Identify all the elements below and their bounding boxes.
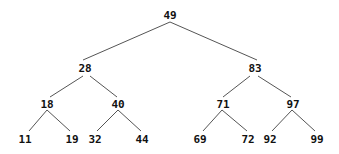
tree-node-97: 97 bbox=[286, 99, 299, 110]
tree-node-28: 28 bbox=[78, 63, 91, 74]
tree-node-32: 32 bbox=[88, 134, 101, 145]
tree-node-71: 71 bbox=[216, 99, 229, 110]
tree-node-40: 40 bbox=[111, 99, 124, 110]
tree-node-69: 69 bbox=[193, 134, 206, 145]
tree-node-99: 99 bbox=[310, 134, 323, 145]
tree-edge-n97-n99 bbox=[292, 110, 315, 131]
tree-edges bbox=[0, 0, 339, 154]
tree-edge-n83-n97 bbox=[258, 76, 291, 97]
tree-edge-n71-n72 bbox=[222, 110, 247, 131]
tree-edge-n71-n69 bbox=[203, 110, 222, 131]
tree-node-18: 18 bbox=[40, 99, 53, 110]
tree-edge-n49-n28 bbox=[83, 22, 170, 60]
tree-node-44: 44 bbox=[135, 134, 148, 145]
tree-edge-n40-n44 bbox=[118, 110, 141, 131]
tree-node-49: 49 bbox=[163, 10, 176, 21]
tree-node-92: 92 bbox=[263, 134, 276, 145]
tree-edge-n40-n32 bbox=[97, 110, 118, 131]
tree-node-83: 83 bbox=[248, 63, 261, 74]
tree-node-11: 11 bbox=[18, 134, 31, 145]
tree-edge-n28-n40 bbox=[90, 76, 117, 97]
tree-edge-n18-n11 bbox=[29, 110, 47, 131]
tree-edge-n83-n71 bbox=[223, 76, 250, 97]
tree-edge-n97-n92 bbox=[272, 110, 292, 131]
tree-edge-n18-n19 bbox=[47, 110, 70, 131]
binary-tree-diagram: 492883184071971119324469729299 bbox=[0, 0, 339, 154]
tree-node-19: 19 bbox=[65, 134, 78, 145]
tree-edge-n28-n18 bbox=[50, 76, 83, 97]
tree-edge-n49-n83 bbox=[170, 22, 257, 60]
tree-node-72: 72 bbox=[241, 134, 254, 145]
